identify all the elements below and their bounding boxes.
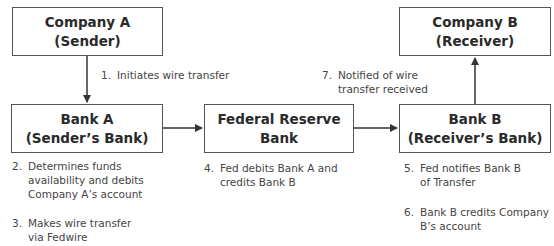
company-a-subtitle: (Sender) bbox=[54, 32, 120, 51]
company-b-subtitle: (Receiver) bbox=[436, 32, 514, 51]
bank-a-subtitle: (Sender’s Bank) bbox=[26, 129, 149, 148]
bank-b-box: Bank B (Receiver’s Bank) bbox=[399, 104, 551, 153]
fed-box: Federal Reserve Bank bbox=[204, 104, 354, 153]
step-6: 6.Bank B credits Company B’s account bbox=[404, 205, 549, 233]
bank-b-title: Bank B bbox=[449, 110, 502, 129]
step-7: 7.Notified of wire transfer received bbox=[322, 68, 428, 96]
bank-b-subtitle: (Receiver’s Bank) bbox=[408, 129, 543, 148]
step-2: 2.Determines funds availability and debi… bbox=[12, 159, 144, 201]
step-3: 3.Makes wire transfer via Fedwire bbox=[12, 216, 131, 244]
company-a-box: Company A (Sender) bbox=[12, 7, 163, 56]
step-4: 4.Fed debits Bank A and credits Bank B bbox=[204, 161, 338, 189]
company-b-title: Company B bbox=[432, 13, 517, 32]
company-a-title: Company A bbox=[45, 13, 131, 32]
fed-subtitle: Bank bbox=[260, 129, 298, 148]
step-5: 5.Fed notifies Bank B of Transfer bbox=[404, 161, 521, 189]
company-b-box: Company B (Receiver) bbox=[399, 7, 551, 56]
fed-title: Federal Reserve bbox=[217, 110, 340, 129]
bank-a-box: Bank A (Sender’s Bank) bbox=[11, 104, 163, 153]
bank-a-title: Bank A bbox=[60, 110, 113, 129]
step-1: 1.Initiates wire transfer bbox=[101, 68, 229, 82]
